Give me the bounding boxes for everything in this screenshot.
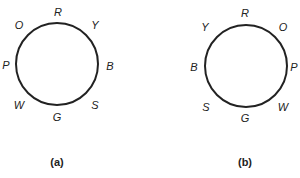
label-a-top: R	[54, 7, 62, 18]
caption-a: (a)	[50, 157, 63, 168]
label-b-right: P	[290, 62, 297, 73]
label-a-bottom-left: W	[14, 100, 24, 111]
label-a-bottom: G	[53, 112, 62, 123]
label-b-left: B	[190, 62, 197, 73]
label-a-top-right: Y	[91, 20, 98, 31]
label-b-bottom-right: W	[278, 102, 288, 113]
label-b-top-left: Y	[201, 22, 208, 33]
label-a-right: B	[106, 61, 113, 72]
circle-a	[16, 23, 98, 105]
label-b-bottom: G	[241, 113, 250, 124]
label-a-top-left: O	[15, 20, 24, 31]
label-b-top: R	[241, 8, 249, 19]
circle-b	[205, 25, 287, 107]
circle-diagrams	[0, 0, 300, 178]
caption-b: (b)	[238, 157, 252, 168]
label-b-top-right: O	[279, 22, 288, 33]
label-b-bottom-left: S	[202, 102, 209, 113]
label-a-bottom-right: S	[91, 100, 98, 111]
label-a-left: P	[2, 60, 9, 71]
